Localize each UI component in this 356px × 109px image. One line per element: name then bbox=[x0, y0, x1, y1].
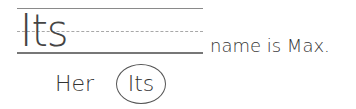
choice-her[interactable]: Her bbox=[55, 71, 94, 96]
choice-its-circled[interactable]: Its bbox=[116, 64, 166, 104]
sentence-remainder: name is Max. bbox=[210, 35, 330, 56]
answer-choices: Her Its bbox=[0, 64, 356, 104]
traced-answer-word: Its bbox=[20, 8, 68, 54]
